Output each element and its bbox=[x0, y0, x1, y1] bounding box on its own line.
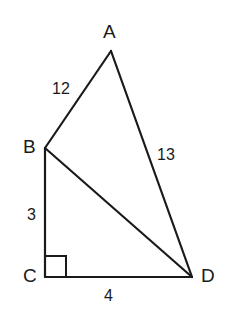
segment-ab bbox=[45, 51, 111, 148]
length-label-ab: 12 bbox=[52, 81, 70, 97]
vertex-label-a: A bbox=[103, 22, 116, 41]
segment-ad bbox=[111, 51, 192, 277]
vertex-label-d: D bbox=[201, 266, 215, 285]
geometry-figure: A B C D 12 13 3 4 bbox=[0, 0, 229, 315]
vertex-label-c: C bbox=[23, 266, 37, 285]
length-label-cd: 4 bbox=[104, 288, 113, 304]
length-label-ad: 13 bbox=[157, 147, 175, 163]
right-angle-marker-c bbox=[45, 256, 66, 277]
length-label-bc: 3 bbox=[27, 207, 36, 223]
vertex-label-b: B bbox=[23, 137, 36, 156]
